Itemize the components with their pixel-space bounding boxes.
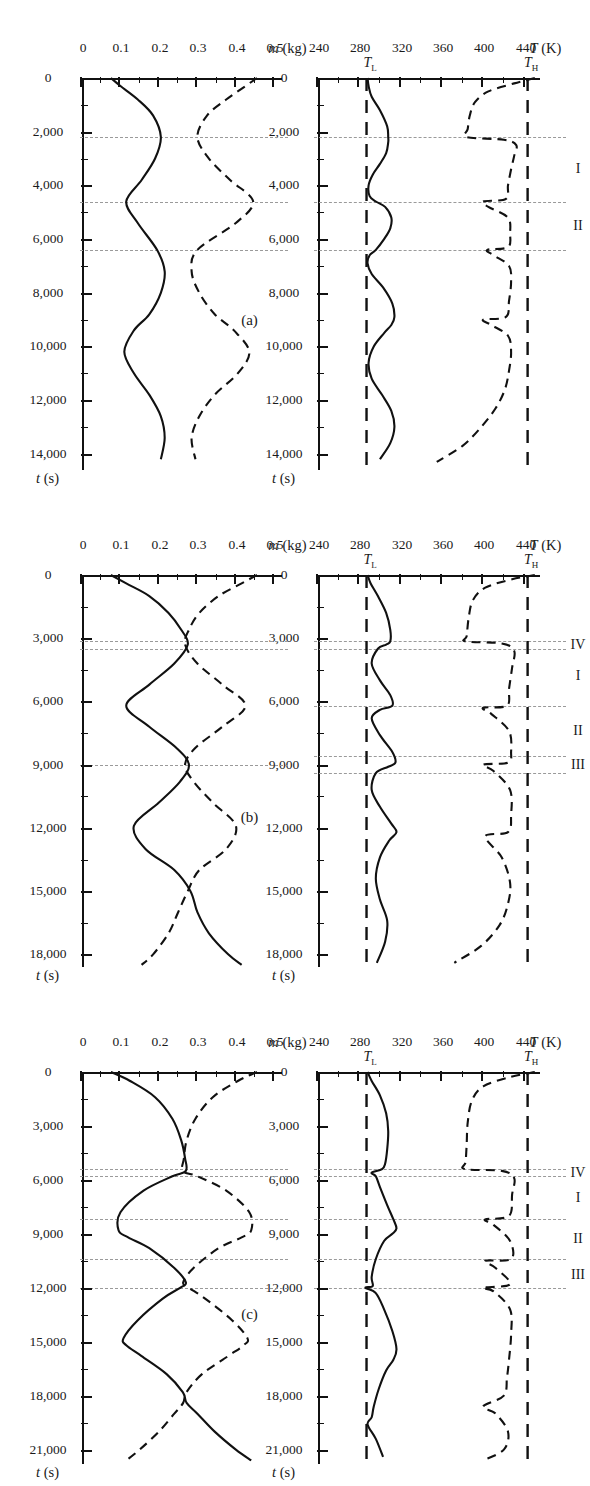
y-tick-label: 320	[380, 40, 424, 56]
y-tick-label: 0.1	[99, 537, 143, 553]
x-tick-label: 4,000	[26, 177, 70, 193]
x-tick-label: 0	[26, 1064, 70, 1080]
series-T-solid	[367, 78, 394, 459]
x-tick-label: 21,000	[26, 1442, 70, 1458]
y-axis-title-mass: m (kg)	[260, 40, 316, 57]
x-tick-label: 9,000	[26, 757, 70, 773]
y-tick-label: 320	[380, 1034, 424, 1050]
mass-subplot-a: 02,0004,0006,0008,00010,00012,00014,0000…	[82, 78, 282, 470]
y-axis-title-temperature: T (K)	[518, 1034, 574, 1051]
level-label-t_h: TH	[511, 1049, 551, 1067]
y-tick-label: 320	[380, 537, 424, 553]
x-tick-label: 18,000	[26, 1388, 70, 1404]
panel-caption-c: (c)	[230, 1306, 270, 1323]
x-axis-title-time: t (s)	[262, 1464, 306, 1481]
x-tick-label: 18,000	[26, 946, 70, 962]
temperature-subplot-c: 03,0006,0009,00012,00015,00018,00021,000…	[318, 1072, 540, 1464]
y-axis-title-mass: m (kg)	[260, 1034, 316, 1051]
plot-area	[82, 575, 282, 967]
y-tick-label: 400	[462, 40, 506, 56]
x-tick-label: 15,000	[26, 883, 70, 899]
x-tick-label: 0	[26, 567, 70, 583]
level-label-t_h: TH	[511, 552, 551, 570]
mass-subplot-b: 03,0006,0009,00012,00015,00018,00000.10.…	[82, 575, 282, 967]
y-tick-label: 0.3	[176, 1034, 220, 1050]
y-tick-label: 0.1	[99, 1034, 143, 1050]
stage-label-iii: III	[562, 757, 590, 773]
stage-label-ii: II	[562, 218, 590, 234]
curves	[82, 575, 282, 967]
series-m-solid	[111, 1072, 251, 1460]
x-tick-label: 6,000	[26, 231, 70, 247]
y-tick-label: 360	[421, 40, 465, 56]
x-tick-label: 12,000	[26, 392, 70, 408]
plot-area	[82, 1072, 282, 1464]
y-tick-label: 0.3	[176, 537, 220, 553]
stage-label-ii: II	[562, 723, 590, 739]
y-axis-title-mass: m (kg)	[260, 537, 316, 554]
stage-label-i: I	[562, 161, 590, 177]
series-m-solid	[111, 78, 165, 459]
stage-label-i: I	[562, 1190, 590, 1206]
x-tick-label: 14,000	[26, 446, 70, 462]
panel-b: 03,0006,0009,00012,00015,00018,000240280…	[0, 497, 558, 983]
level-label-t_h: TH	[511, 55, 551, 73]
y-tick-label: 400	[462, 537, 506, 553]
x-axis-title-time: t (s)	[26, 1464, 70, 1481]
series-m-dashed	[191, 78, 257, 459]
series-T-dashed	[454, 575, 535, 963]
plot-area	[318, 575, 540, 967]
y-tick-label: 280	[338, 1034, 382, 1050]
y-tick-label: 360	[421, 1034, 465, 1050]
x-tick-label: 12,000	[26, 820, 70, 836]
stage-label-iv: IV	[562, 1165, 590, 1181]
y-axis-title-temperature: T (K)	[518, 40, 574, 57]
x-tick-label: 3,000	[26, 1118, 70, 1134]
y-tick-label: 0.1	[99, 40, 143, 56]
x-tick-label: 0	[26, 70, 70, 86]
level-label-t_l: TL	[350, 1049, 390, 1067]
series-T-solid	[365, 1072, 396, 1457]
level-label-t_l: TL	[350, 552, 390, 570]
series-T-solid	[368, 575, 397, 963]
x-axis-title-time: t (s)	[262, 967, 306, 984]
curves	[318, 78, 540, 470]
series-T-dashed	[437, 78, 535, 462]
y-axis-title-temperature: T (K)	[518, 537, 574, 554]
temperature-subplot-a: 02,0004,0006,0008,00010,00012,00014,0002…	[318, 78, 540, 470]
stage-label-iii: III	[562, 1267, 590, 1283]
x-tick-label: 6,000	[26, 693, 70, 709]
stage-label-ii: II	[562, 1231, 590, 1247]
y-tick-label: 400	[462, 1034, 506, 1050]
x-tick-label: 12,000	[26, 1280, 70, 1296]
x-axis-title-time: t (s)	[26, 967, 70, 984]
plot-area	[318, 78, 540, 470]
panel-c: 03,0006,0009,00012,00015,00018,00021,000…	[0, 994, 558, 1480]
x-axis-title-time: t (s)	[262, 470, 306, 487]
x-tick-label: 8,000	[26, 285, 70, 301]
series-m-dashed	[126, 1072, 257, 1460]
series-m-solid	[111, 575, 242, 965]
x-tick-label: 3,000	[26, 630, 70, 646]
plot-area	[82, 78, 282, 470]
y-tick-label: 360	[421, 537, 465, 553]
level-label-t_l: TL	[350, 55, 390, 73]
stage-label-i: I	[562, 668, 590, 684]
x-tick-label: 6,000	[26, 1172, 70, 1188]
curves	[318, 1072, 540, 1464]
curves	[82, 78, 282, 470]
series-T-dashed	[462, 1072, 535, 1460]
panel-caption-b: (b)	[230, 809, 270, 826]
panel-a: 02,0004,0006,0008,00010,00012,00014,0002…	[0, 0, 558, 486]
x-tick-label: 9,000	[26, 1226, 70, 1242]
y-tick-label: 0.3	[176, 40, 220, 56]
x-tick-label: 2,000	[26, 124, 70, 140]
curves	[318, 575, 540, 967]
stage-label-iv: IV	[562, 637, 590, 653]
series-m-dashed	[142, 575, 257, 965]
mass-subplot-c: 03,0006,0009,00012,00015,00018,00021,000…	[82, 1072, 282, 1464]
temperature-subplot-b: 03,0006,0009,00012,00015,00018,000240280…	[318, 575, 540, 967]
x-tick-label: 10,000	[26, 338, 70, 354]
